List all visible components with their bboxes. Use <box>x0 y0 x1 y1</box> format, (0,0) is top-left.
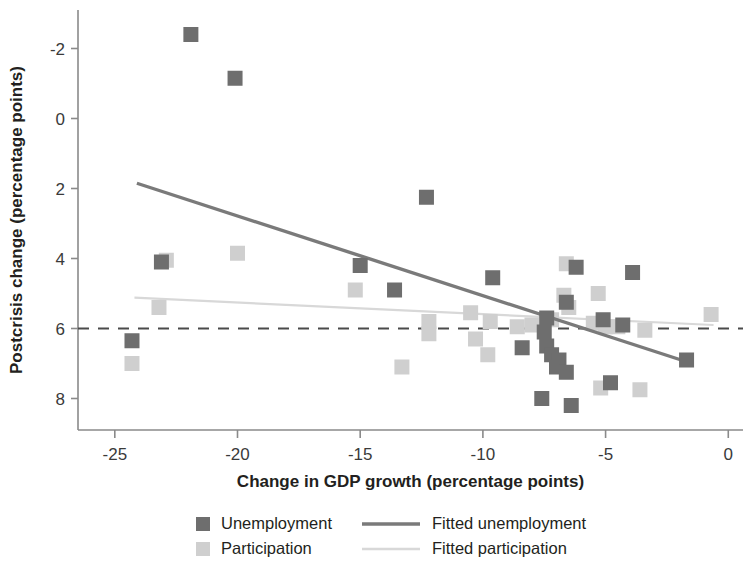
unemployment-marker <box>537 325 552 340</box>
unemployment-marker <box>419 190 434 205</box>
participation-marker <box>348 283 363 298</box>
unemployment-marker <box>353 258 368 273</box>
unemployment-marker <box>124 333 139 348</box>
unemployment-marker <box>559 295 574 310</box>
chart-legend: UnemploymentParticipationFitted unemploy… <box>196 514 586 557</box>
unemployment-marker <box>228 71 243 86</box>
participation-marker <box>591 286 606 301</box>
legend-swatch-unemployment <box>196 517 210 531</box>
y-tick-label: 2 <box>56 180 65 199</box>
unemployment-marker <box>615 318 630 333</box>
participation-marker <box>230 246 245 261</box>
participation-marker <box>480 347 495 362</box>
unemployment-marker <box>534 391 549 406</box>
unemployment-marker <box>515 340 530 355</box>
unemployment-marker <box>539 311 554 326</box>
unemployment-marker <box>485 270 500 285</box>
legend-label-participation: Participation <box>221 539 312 557</box>
y-tick-label: -2 <box>50 40 65 59</box>
participation-marker <box>637 323 652 338</box>
x-tick-label: -10 <box>471 445 496 464</box>
y-tick-label: 4 <box>56 250 65 269</box>
unemployment-marker <box>603 375 618 390</box>
unemployment-marker <box>596 312 611 327</box>
participation-marker <box>483 314 498 329</box>
x-tick-label: -15 <box>348 445 373 464</box>
unemployment-marker <box>564 398 579 413</box>
participation-marker <box>394 360 409 375</box>
legend-label-fitted-participation: Fitted participation <box>432 539 567 557</box>
participation-marker <box>704 307 719 322</box>
participation-marker <box>151 300 166 315</box>
x-tick-label: 0 <box>724 445 733 464</box>
unemployment-marker <box>387 283 402 298</box>
y-tick-label: 6 <box>56 320 65 339</box>
y-axis-title: Postcrisis change (percentage points) <box>7 66 26 374</box>
x-tick-label: -25 <box>103 445 128 464</box>
participation-marker <box>510 319 525 334</box>
y-tick-label: 0 <box>56 110 65 129</box>
unemployment-marker-group <box>124 27 694 413</box>
unemployment-marker <box>183 27 198 42</box>
x-tick-label: -5 <box>598 445 613 464</box>
unemployment-marker <box>154 255 169 270</box>
x-axis-title: Change in GDP growth (percentage points) <box>237 472 584 491</box>
chart-canvas: 86420-2-25-20-15-10-50Change in GDP grow… <box>0 0 751 568</box>
unemployment-marker <box>559 365 574 380</box>
participation-marker <box>463 305 478 320</box>
legend-label-fitted-unemployment: Fitted unemployment <box>432 514 586 532</box>
participation-marker <box>421 326 436 341</box>
x-tick-label: -20 <box>225 445 250 464</box>
participation-marker <box>124 356 139 371</box>
legend-label-unemployment: Unemployment <box>221 514 332 532</box>
participation-marker <box>632 382 647 397</box>
unemployment-marker <box>569 260 584 275</box>
legend-swatch-participation <box>196 542 210 556</box>
unemployment-marker <box>625 265 640 280</box>
scatter-chart-figure: 86420-2-25-20-15-10-50Change in GDP grow… <box>0 0 751 568</box>
fitted-unemployment-line <box>137 183 687 362</box>
participation-marker <box>468 332 483 347</box>
unemployment-marker <box>679 353 694 368</box>
y-tick-label: 8 <box>56 390 65 409</box>
